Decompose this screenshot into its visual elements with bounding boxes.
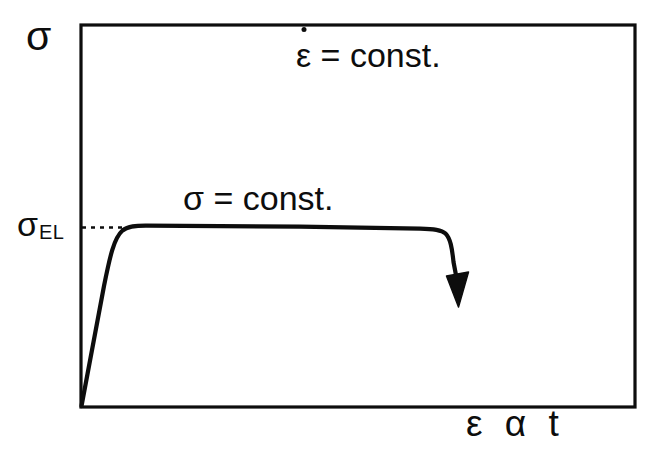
overdot-icon (301, 27, 306, 32)
y-axis-label: σ (26, 16, 51, 57)
annotation-strain-rate-const: ε = const. (296, 38, 441, 72)
epsilon-symbol: ε (296, 36, 311, 74)
strain-rate-equation-rest: = const. (311, 36, 440, 74)
annotation-stress-const: σ = const. (183, 181, 333, 215)
sigma-el-subscript: EL (39, 222, 64, 242)
sigma-el-tick-label: σEL (17, 207, 63, 241)
epsilon-dot-symbol: ε (296, 38, 311, 72)
sigma-el-symbol: σ (17, 207, 38, 241)
figure-root: σ σEL ε α t ε = const. σ = const. (0, 0, 651, 452)
x-axis-label: ε α t (466, 405, 565, 442)
plot-frame-border (81, 25, 635, 407)
